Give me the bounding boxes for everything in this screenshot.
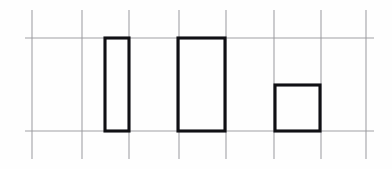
bar-3 xyxy=(275,85,320,131)
bars-group xyxy=(105,38,320,131)
hand-drawn-bar-diagram xyxy=(0,0,392,169)
bar-1 xyxy=(105,38,129,131)
figure-canvas xyxy=(0,0,392,169)
bar-2 xyxy=(178,38,225,131)
grid-horizontal-lines xyxy=(25,38,374,131)
